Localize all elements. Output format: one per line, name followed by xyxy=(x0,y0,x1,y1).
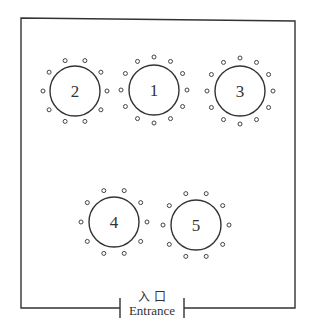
seat xyxy=(139,239,143,243)
seat xyxy=(122,251,126,255)
seat xyxy=(136,117,140,121)
seat xyxy=(167,242,171,246)
table-3: 3 xyxy=(205,56,275,126)
table-number: 3 xyxy=(236,82,245,101)
seat xyxy=(47,70,51,74)
seat xyxy=(204,192,208,196)
seat xyxy=(102,189,106,193)
seat xyxy=(181,72,185,76)
seat xyxy=(63,59,67,63)
floor-plan: 21345 入 口 Entrance xyxy=(0,0,311,334)
seat xyxy=(267,106,271,110)
seat xyxy=(41,89,45,93)
seat xyxy=(209,106,213,110)
seat xyxy=(205,89,209,93)
table-4: 4 xyxy=(79,189,149,256)
seat xyxy=(99,108,103,112)
seat xyxy=(255,60,259,64)
seat xyxy=(85,201,89,205)
seat xyxy=(105,89,109,93)
seat xyxy=(123,72,127,76)
seat xyxy=(169,117,173,121)
seat xyxy=(79,220,83,224)
seat xyxy=(136,59,140,63)
seat xyxy=(222,60,226,64)
table-number: 4 xyxy=(110,213,119,232)
table-2: 2 xyxy=(41,59,109,124)
seat xyxy=(122,189,126,193)
seat xyxy=(99,70,103,74)
seat xyxy=(152,55,156,59)
seat xyxy=(238,122,242,126)
seat xyxy=(83,119,87,123)
entrance: 入 口 Entrance xyxy=(129,290,175,318)
seat xyxy=(139,201,143,205)
table-number: 2 xyxy=(71,82,80,101)
seat xyxy=(227,223,231,227)
seat xyxy=(181,105,185,109)
seat xyxy=(152,121,156,125)
room-outline xyxy=(21,18,295,308)
seat xyxy=(221,242,225,246)
table-1: 1 xyxy=(119,55,189,125)
seat xyxy=(221,204,225,208)
entrance-label-cn: 入 口 xyxy=(138,290,166,304)
seat xyxy=(169,59,173,63)
table-number: 5 xyxy=(192,216,201,235)
seat xyxy=(184,254,188,258)
seat xyxy=(185,88,189,92)
table-number: 1 xyxy=(150,81,159,100)
seat xyxy=(161,223,165,227)
seat xyxy=(222,118,226,122)
seat xyxy=(167,204,171,208)
seat xyxy=(271,89,275,93)
seat xyxy=(85,239,89,243)
seat xyxy=(47,108,51,112)
entrance-label-en: Entrance xyxy=(129,303,175,318)
seat xyxy=(119,88,123,92)
tables-group: 21345 xyxy=(41,55,275,258)
room-walls xyxy=(21,18,295,318)
seat xyxy=(102,251,106,255)
seat xyxy=(204,254,208,258)
seat xyxy=(184,192,188,196)
seat xyxy=(267,73,271,77)
seat xyxy=(123,105,127,109)
seat xyxy=(145,220,149,224)
table-5: 5 xyxy=(161,192,231,259)
seat xyxy=(209,73,213,77)
seat xyxy=(63,119,67,123)
seat xyxy=(83,59,87,63)
seat xyxy=(255,118,259,122)
seat xyxy=(238,56,242,60)
